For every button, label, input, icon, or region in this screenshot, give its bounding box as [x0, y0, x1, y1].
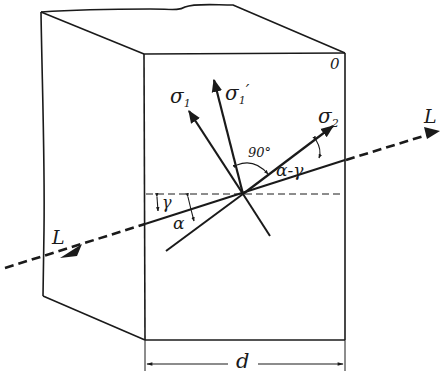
- outgoing-ray-arrow-icon: [424, 127, 440, 139]
- angle-gamma-label: γ: [162, 195, 172, 211]
- outgoing-ray: [346, 134, 430, 160]
- thickness-label: d: [236, 351, 249, 372]
- angle-90-label: 90°: [248, 146, 271, 159]
- sigma1-label: σ1: [170, 86, 191, 106]
- sigma1-symbol: σ: [170, 84, 184, 108]
- sigma1-prime-label: σ1′: [225, 83, 249, 103]
- incoming-ray: [5, 224, 145, 268]
- sigma1-prime-mark: ′: [246, 81, 250, 100]
- angle-alpha-minus-gamma-arc: [316, 140, 320, 158]
- sigma1-subscript: 1: [184, 97, 191, 110]
- top-front-left-edge: [41, 12, 144, 54]
- angle-90-arc: [237, 163, 268, 174]
- sigma1-prime-subscript: 1: [239, 94, 246, 107]
- angle-gamma-arc: [157, 197, 158, 211]
- sigma2-subscript: 2: [332, 117, 339, 130]
- top-face-edge: [41, 5, 345, 54]
- bottom-left-edge: [43, 296, 145, 340]
- corner-label: 0: [330, 57, 340, 72]
- sigma1-prime-symbol: σ: [225, 81, 239, 105]
- angle-alpha-minus-gamma-label: α-γ: [276, 162, 303, 179]
- front-top-edge: [144, 53, 345, 54]
- crystal-stress-diagram: σ1 σ1′ σ2 90° α-γ γ α L L 0 d: [0, 0, 441, 380]
- sigma2-symbol: σ: [318, 104, 332, 128]
- sigma1-axis: [189, 111, 243, 194]
- front-left-edge: [144, 54, 145, 340]
- lower-right-line: [243, 194, 270, 236]
- ray-out-label: L: [424, 107, 437, 126]
- diagram-canvas: [0, 0, 441, 380]
- sigma2-label: σ2: [318, 106, 339, 126]
- angle-alpha-label: α: [173, 215, 184, 232]
- ray-in-label: L: [52, 228, 65, 247]
- left-back-edge: [41, 12, 44, 296]
